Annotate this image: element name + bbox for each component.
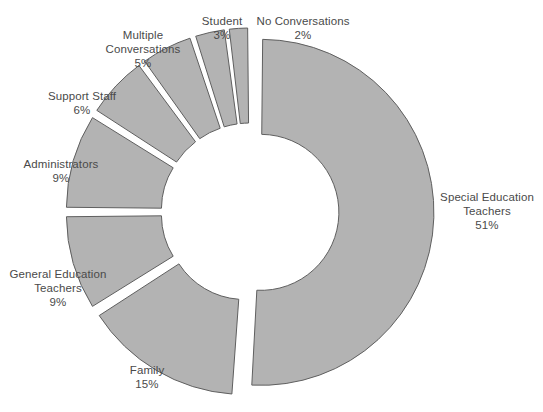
slice-label-line1: Multiple — [95, 28, 191, 42]
slice-label-line1: Student — [190, 14, 254, 28]
slice-label-special-education-teachers: Special Education Teachers 51% — [433, 190, 541, 232]
pie-slice-special-education-teachers[interactable] — [252, 39, 434, 385]
slices-group — [66, 28, 433, 394]
slice-label-line1: No Conversations — [251, 14, 355, 28]
slice-label-support-staff: Support Staff 6% — [36, 89, 128, 117]
slice-label-percent: 9% — [2, 295, 114, 309]
slice-label-family: Family 15% — [103, 363, 191, 391]
slice-label-line1: Administrators — [12, 157, 110, 171]
donut-chart: Special Education Teachers 51% Family 15… — [0, 0, 543, 412]
slice-label-multiple-conversations: Multiple Conversations 5% — [95, 28, 191, 70]
slice-label-line1: Special Education — [433, 190, 541, 204]
slice-label-line1: General Education — [2, 267, 114, 281]
slice-label-percent: 9% — [12, 171, 110, 185]
slice-label-administrators: Administrators 9% — [12, 157, 110, 185]
slice-label-percent: 51% — [433, 218, 541, 232]
slice-label-percent: 3% — [190, 28, 254, 42]
slice-label-line2: Teachers — [433, 204, 541, 218]
slice-label-percent: 6% — [36, 103, 128, 117]
slice-label-line2: Conversations — [95, 42, 191, 56]
slice-label-no-conversations: No Conversations 2% — [251, 14, 355, 42]
slice-label-student: Student 3% — [190, 14, 254, 42]
slice-label-percent: 5% — [95, 56, 191, 70]
slice-label-percent: 2% — [251, 28, 355, 42]
slice-label-general-education-teachers: General Education Teachers 9% — [2, 267, 114, 309]
slice-label-line1: Family — [103, 363, 191, 377]
slice-label-percent: 15% — [103, 377, 191, 391]
slice-label-line2: Teachers — [2, 281, 114, 295]
slice-label-line1: Support Staff — [36, 89, 128, 103]
